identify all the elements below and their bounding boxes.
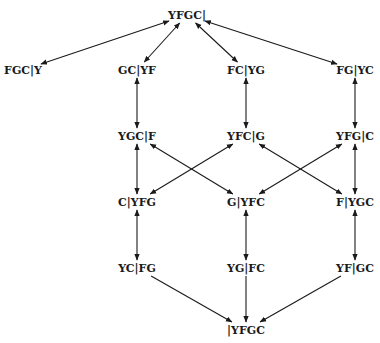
bidirectional-edge-arrow [205, 21, 337, 64]
state-node: F|YGC [336, 196, 374, 209]
state-node: YG|FC [227, 262, 265, 275]
edges-layer [0, 0, 380, 343]
state-node: YGC|F [118, 130, 156, 143]
state-node: C|YFG [118, 196, 156, 209]
state-node: FG|YC [336, 64, 374, 77]
state-node: YFG|C [336, 130, 374, 143]
state-node: |YFGC [227, 324, 265, 337]
bidirectional-edge-arrow [144, 23, 179, 62]
state-node: YF|GC [336, 262, 374, 275]
state-node: GC|YF [118, 64, 156, 77]
directed-edge-arrow [151, 276, 232, 322]
directed-edge-arrow [260, 276, 341, 322]
state-node: YFGC| [168, 9, 206, 22]
state-node: FC|YG [227, 64, 265, 77]
state-node: YFC|G [227, 130, 265, 143]
state-node: YC|FG [118, 262, 156, 275]
state-diagram: YFGC|FGC|YGC|YFFC|YGFG|YCYGC|FYFC|GYFG|C… [0, 0, 380, 343]
state-node: FGC|Y [4, 64, 42, 77]
state-node: G|YFC [227, 196, 265, 209]
bidirectional-edge-arrow [41, 21, 169, 64]
bidirectional-edge-arrow [196, 23, 238, 62]
